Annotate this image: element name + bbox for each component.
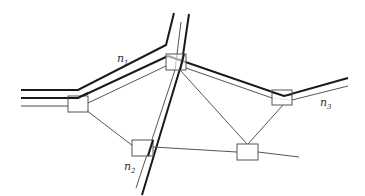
node-E xyxy=(237,144,258,160)
road-network-diagram: n1 n2 n3 xyxy=(0,0,365,196)
label-n3: n3 xyxy=(320,96,332,111)
road-n1 xyxy=(21,13,174,106)
links xyxy=(86,70,299,157)
label-n1: n1 xyxy=(117,52,129,67)
road-n3-upper-edge xyxy=(168,56,348,96)
label-n2: n2 xyxy=(124,160,136,175)
road-n2-right-edge xyxy=(142,14,189,195)
road-n3 xyxy=(168,56,348,100)
road-n1-inner-edge xyxy=(21,56,168,98)
road-overlays xyxy=(68,54,292,156)
road-n2 xyxy=(136,14,189,195)
link-C-E xyxy=(248,105,283,144)
road-n2-left-edge xyxy=(136,22,181,188)
link-B-E xyxy=(180,70,247,144)
link-E-out xyxy=(258,152,299,157)
link-D-E xyxy=(153,147,237,152)
link-A-D xyxy=(86,110,133,146)
road-n1-lane-diagonal xyxy=(88,66,166,103)
road-n1-outer-edge xyxy=(21,13,174,90)
